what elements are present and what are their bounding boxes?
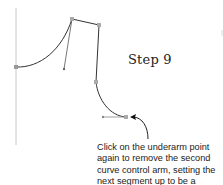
- handle-shoulder-control[interactable]: [63, 68, 65, 70]
- instruction-caption: Click on the underarm point again to rem…: [97, 142, 223, 185]
- anchor-armhole-mid[interactable]: [94, 80, 98, 84]
- anchor-shoulder-neck[interactable]: [70, 17, 74, 21]
- armhole-straight: [96, 25, 99, 82]
- caption-line: curve control arm, setting the: [97, 165, 223, 176]
- control-arm-shoulder: [64, 19, 72, 69]
- handle-underarm-control[interactable]: [102, 116, 104, 118]
- anchor-underarm[interactable]: [124, 115, 128, 119]
- step-title: Step 9: [128, 52, 172, 67]
- anchor-shoulder-tip[interactable]: [97, 23, 101, 27]
- shoulder-line: [72, 19, 99, 25]
- caption-line: next segment up to be a: [97, 176, 223, 185]
- anchor-left[interactable]: [14, 65, 18, 69]
- caption-line: Click on the underarm point: [97, 142, 223, 153]
- neckline-curve: [16, 19, 72, 67]
- pointer-arrow-line: [134, 117, 148, 139]
- armhole-curve: [96, 82, 126, 117]
- caption-line: again to remove the second: [97, 153, 223, 164]
- pattern-diagram: Step 9 Click on the underarm point again…: [0, 0, 223, 185]
